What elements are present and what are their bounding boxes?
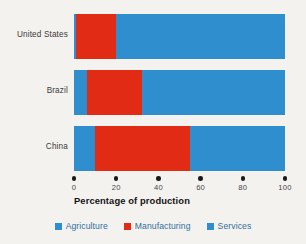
tick-dot-icon [198, 176, 203, 181]
x-tick-label: 40 [143, 183, 173, 192]
x-tick-label: 0 [59, 183, 89, 192]
bar-segment-agriculture[interactable] [74, 70, 87, 115]
bar-segment-manufacturing[interactable] [95, 126, 190, 171]
x-axis-title: Percentage of production [74, 195, 190, 206]
bar-segment-services[interactable] [190, 126, 285, 171]
plot-area [74, 12, 285, 172]
legend-swatch-icon [207, 223, 214, 230]
x-tick: 20 [101, 176, 131, 192]
category-label-china: China [0, 142, 68, 151]
legend-label: Services [218, 221, 252, 231]
x-tick-label: 60 [186, 183, 216, 192]
category-label-brazil: Brazil [0, 86, 68, 95]
legend-swatch-icon [55, 223, 62, 230]
x-tick-label: 100 [270, 183, 300, 192]
x-tick-label: 80 [228, 183, 258, 192]
legend-item-services[interactable]: Services [207, 221, 252, 231]
tick-dot-icon [156, 176, 161, 181]
chart-legend: Agriculture Manufacturing Services [0, 221, 306, 231]
bar-segment-manufacturing[interactable] [76, 14, 116, 59]
x-tick: 80 [228, 176, 258, 192]
legend-item-agriculture[interactable]: Agriculture [55, 221, 108, 231]
x-tick: 100 [270, 176, 300, 192]
legend-item-manufacturing[interactable]: Manufacturing [124, 221, 191, 231]
bar-row [74, 126, 285, 171]
category-label-united-states: United States [0, 30, 68, 39]
bar-segment-services[interactable] [116, 14, 285, 59]
bar-segment-manufacturing[interactable] [87, 70, 142, 115]
bar-row [74, 70, 285, 115]
x-tick: 0 [59, 176, 89, 192]
x-tick-label: 20 [101, 183, 131, 192]
tick-dot-icon [114, 176, 119, 181]
tick-dot-icon [72, 176, 77, 181]
stacked-bar-chart: United States Brazil China 0 20 [0, 0, 306, 244]
x-tick: 60 [186, 176, 216, 192]
legend-swatch-icon [124, 223, 131, 230]
tick-dot-icon [283, 176, 288, 181]
tick-dot-icon [241, 176, 246, 181]
legend-label: Manufacturing [135, 221, 191, 231]
bar-row [74, 14, 285, 59]
bar-segment-services[interactable] [142, 70, 285, 115]
legend-label: Agriculture [66, 221, 108, 231]
bar-segment-agriculture[interactable] [74, 126, 95, 171]
x-tick: 40 [143, 176, 173, 192]
